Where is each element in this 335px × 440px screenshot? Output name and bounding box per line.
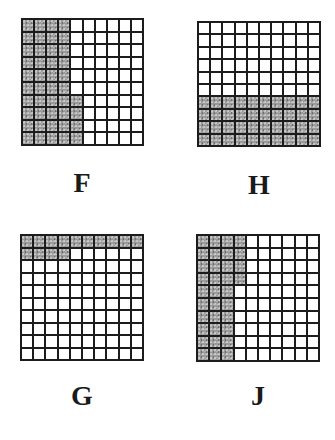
shaded-cell <box>35 70 45 81</box>
shaded-cell <box>199 97 209 107</box>
shaded-cell <box>46 249 56 260</box>
empty-cell <box>271 312 281 323</box>
empty-cell <box>247 299 257 310</box>
shaded-cell <box>198 312 208 323</box>
empty-cell <box>272 60 282 70</box>
shaded-cell <box>309 97 319 107</box>
empty-cell <box>296 299 306 310</box>
empty-cell <box>107 336 117 347</box>
empty-cell <box>297 85 307 95</box>
empty-cell <box>271 337 281 348</box>
empty-cell <box>235 312 245 323</box>
empty-cell <box>236 35 246 45</box>
empty-cell <box>272 48 282 58</box>
empty-cell <box>34 336 44 347</box>
empty-cell <box>95 311 105 322</box>
empty-cell <box>22 311 32 322</box>
shaded-cell <box>71 108 81 119</box>
empty-cell <box>211 35 221 45</box>
figure-label-G: G <box>52 382 112 410</box>
empty-cell <box>83 349 93 360</box>
empty-cell <box>96 133 106 144</box>
shaded-cell <box>235 236 245 247</box>
empty-cell <box>271 249 281 260</box>
empty-cell <box>46 349 56 360</box>
shaded-cell <box>59 96 69 107</box>
empty-cell <box>46 274 56 285</box>
empty-cell <box>132 274 142 285</box>
empty-cell <box>296 337 306 348</box>
shaded-cell <box>59 45 69 56</box>
shaded-cell <box>59 33 69 44</box>
empty-cell <box>259 261 269 272</box>
shaded-cell <box>83 236 93 247</box>
shaded-cell <box>23 133 33 144</box>
shaded-cell <box>23 83 33 94</box>
shaded-cell <box>198 324 208 335</box>
empty-cell <box>34 261 44 272</box>
empty-cell <box>96 121 106 132</box>
empty-cell <box>199 35 209 45</box>
empty-cell <box>59 286 69 297</box>
empty-cell <box>309 60 319 70</box>
shaded-cell <box>297 122 307 132</box>
empty-cell <box>211 60 221 70</box>
empty-cell <box>308 236 318 247</box>
shaded-cell <box>210 299 220 310</box>
shaded-cell <box>71 121 81 132</box>
empty-cell <box>132 20 142 31</box>
empty-cell <box>120 45 130 56</box>
shaded-cell <box>35 121 45 132</box>
empty-cell <box>34 274 44 285</box>
empty-cell <box>120 33 130 44</box>
empty-cell <box>107 249 117 260</box>
empty-cell <box>296 261 306 272</box>
shaded-cell <box>297 97 307 107</box>
empty-cell <box>107 324 117 335</box>
empty-cell <box>120 336 130 347</box>
shaded-cell <box>199 135 209 145</box>
empty-cell <box>46 299 56 310</box>
empty-cell <box>132 58 142 69</box>
empty-cell <box>132 45 142 56</box>
empty-cell <box>59 274 69 285</box>
shaded-cell <box>222 249 232 260</box>
empty-cell <box>71 83 81 94</box>
empty-cell <box>71 336 81 347</box>
shaded-cell <box>199 122 209 132</box>
empty-cell <box>59 261 69 272</box>
empty-cell <box>199 48 209 58</box>
shaded-cell <box>59 249 69 260</box>
shaded-cell <box>236 97 246 107</box>
shaded-cell <box>198 337 208 348</box>
empty-cell <box>22 336 32 347</box>
shaded-cell <box>35 108 45 119</box>
shaded-cell <box>71 96 81 107</box>
empty-cell <box>271 349 281 360</box>
shaded-cell <box>284 97 294 107</box>
empty-cell <box>120 20 130 31</box>
empty-cell <box>308 286 318 297</box>
empty-cell <box>296 324 306 335</box>
empty-cell <box>132 121 142 132</box>
shaded-cell <box>222 312 232 323</box>
empty-cell <box>71 299 81 310</box>
empty-cell <box>120 96 130 107</box>
empty-cell <box>271 274 281 285</box>
empty-cell <box>309 48 319 58</box>
empty-cell <box>120 324 130 335</box>
shaded-cell <box>23 58 33 69</box>
shaded-cell <box>222 286 232 297</box>
empty-cell <box>259 236 269 247</box>
shaded-cell <box>210 274 220 285</box>
empty-cell <box>95 261 105 272</box>
shaded-cell <box>199 110 209 120</box>
empty-cell <box>259 249 269 260</box>
empty-cell <box>260 85 270 95</box>
empty-cell <box>283 286 293 297</box>
empty-cell <box>84 133 94 144</box>
empty-cell <box>95 299 105 310</box>
empty-cell <box>309 23 319 33</box>
empty-cell <box>236 85 246 95</box>
shaded-cell <box>47 20 57 31</box>
